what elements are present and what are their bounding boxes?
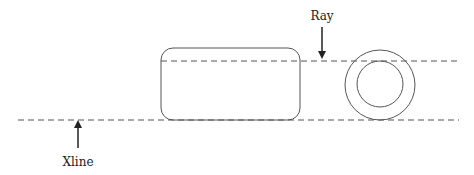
xline-ray-diagram: Ray Xline (0, 0, 474, 175)
inner-circle (357, 61, 403, 107)
rounded-rectangle (161, 48, 300, 120)
ray-label: Ray (310, 9, 333, 23)
xline-label: Xline (62, 155, 93, 169)
